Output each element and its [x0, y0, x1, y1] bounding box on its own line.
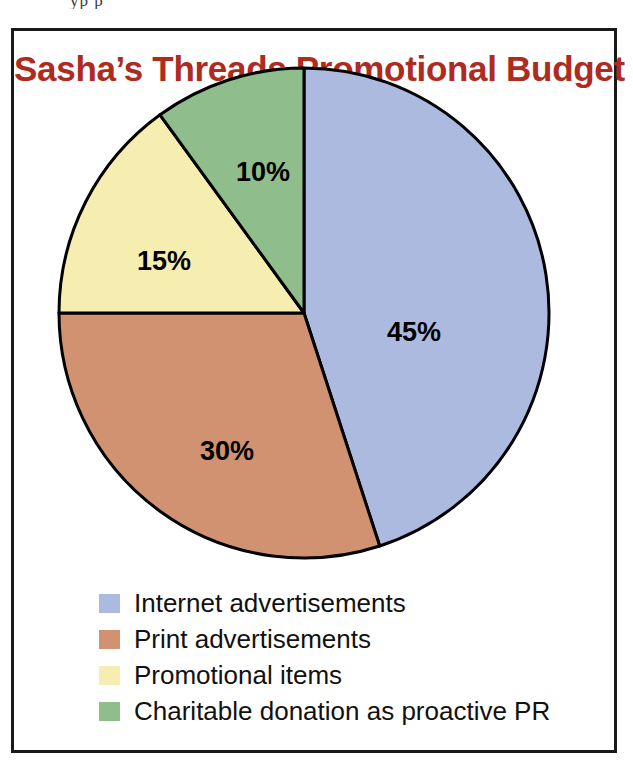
- pie-slice-label-internet-advertisements: 45%: [387, 317, 441, 348]
- legend-swatch-icon: [99, 702, 120, 721]
- chart-legend: Internet advertisements Print advertisem…: [99, 585, 550, 729]
- legend-item: Internet advertisements: [99, 585, 550, 621]
- legend-swatch-icon: [99, 666, 120, 685]
- legend-item: Charitable donation as proactive PR: [99, 693, 550, 729]
- page-top-text-bleed: yp p: [70, 0, 370, 9]
- legend-item-label: Internet advertisements: [134, 590, 406, 616]
- pie-svg: [54, 63, 554, 563]
- chart-frame: Sasha’s Threads Promotional Budget 45% 3…: [11, 28, 617, 753]
- legend-item-label: Charitable donation as proactive PR: [134, 698, 550, 724]
- legend-item: Print advertisements: [99, 621, 550, 657]
- pie-slice-label-promotional-items: 15%: [137, 246, 191, 277]
- legend-swatch-icon: [99, 630, 120, 649]
- pie-slice-label-print-advertisements: 30%: [200, 436, 254, 467]
- legend-item-label: Promotional items: [134, 662, 342, 688]
- legend-item: Promotional items: [99, 657, 550, 693]
- legend-swatch-icon: [99, 594, 120, 613]
- legend-item-label: Print advertisements: [134, 626, 371, 652]
- pie-slice-label-charitable-donation: 10%: [236, 157, 290, 188]
